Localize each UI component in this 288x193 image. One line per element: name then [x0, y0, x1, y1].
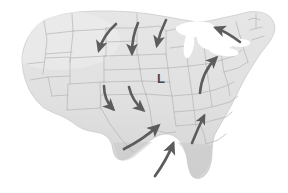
us-weather-map-figure: L — [0, 0, 288, 193]
low-pressure-label: L — [157, 71, 165, 86]
map-canvas: L — [0, 0, 288, 193]
landmass-group — [0, 10, 288, 193]
wind-arrow-mississippi — [155, 144, 173, 176]
